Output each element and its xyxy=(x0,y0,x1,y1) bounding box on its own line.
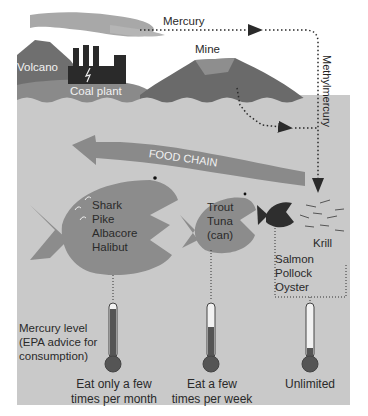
krill-label: Krill xyxy=(313,236,332,250)
advice-medium-fish: Eat a few times per week xyxy=(170,377,254,407)
methylmercury-label: Methylmercury xyxy=(321,55,333,127)
waves xyxy=(17,98,350,111)
coal-plant-label: Coal plant xyxy=(70,84,122,98)
volcano-label: Volcano xyxy=(17,60,58,74)
mercury-label: Mercury xyxy=(163,14,205,28)
advice-small-fish: Unlimited xyxy=(278,377,342,392)
coal-plant xyxy=(68,45,126,84)
medium-fish-names: Trout Tuna (can) xyxy=(207,200,233,242)
small-fish-names: Salmon Pollock Oyster xyxy=(275,252,314,294)
advice-large-fish: Eat only a few times per month xyxy=(68,377,160,407)
mine-label: Mine xyxy=(195,42,220,56)
large-fish-names: Shark Pike Albacore Halibut xyxy=(92,198,137,254)
mercury-food-chain-diagram: Volcano Coal plant Mine Mercury Methylme… xyxy=(0,0,368,416)
mercury-level-legend: Mercury level (EPA advice for consumptio… xyxy=(19,321,97,363)
